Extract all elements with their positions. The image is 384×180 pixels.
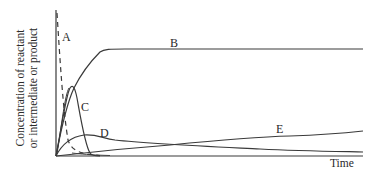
y-axis-label: Concentration of reactant or intermediat… bbox=[4, 18, 48, 158]
label-c: C bbox=[81, 100, 89, 115]
label-a: A bbox=[62, 30, 71, 45]
reaction-kinetics-chart bbox=[0, 0, 384, 180]
label-b: B bbox=[170, 36, 178, 51]
label-e: E bbox=[276, 122, 283, 137]
y-axis-label-line2: or intermediate or product bbox=[26, 28, 39, 148]
label-d: D bbox=[100, 126, 109, 141]
y-axis-label-line1: Concentration of reactant bbox=[14, 28, 27, 148]
x-axis-label: Time bbox=[330, 157, 354, 169]
